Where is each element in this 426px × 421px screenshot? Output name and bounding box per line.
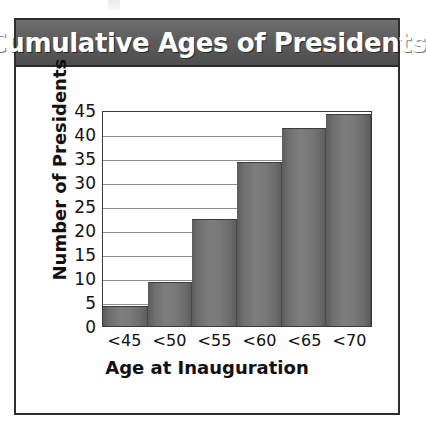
scan-artifact <box>108 0 120 10</box>
plot-canvas <box>102 111 372 327</box>
chart-frame: Cumulative Ages of Presidents Number of … <box>14 18 400 415</box>
y-tick-label: 30 <box>74 175 96 192</box>
x-tick-label: <60 <box>237 331 282 350</box>
y-tick-label: 25 <box>74 199 96 216</box>
bar <box>326 114 371 326</box>
y-tick-label: 45 <box>74 103 96 120</box>
chart-title: Cumulative Ages of Presidents <box>0 28 426 58</box>
y-tick-label: 20 <box>74 223 96 240</box>
bar <box>103 306 148 326</box>
y-tick-label: 0 <box>85 319 96 336</box>
chart-plot-area: Number of Presidents 051015202530354045 … <box>16 69 398 413</box>
x-tick-label: <45 <box>102 331 147 350</box>
y-tick-label: 5 <box>85 295 96 312</box>
y-tick-label: 10 <box>74 271 96 288</box>
y-axis-tick-labels: 051015202530354045 <box>60 111 96 327</box>
chart-title-bar: Cumulative Ages of Presidents <box>16 20 398 67</box>
y-tick-label: 15 <box>74 247 96 264</box>
x-tick-label: <50 <box>147 331 192 350</box>
bar <box>192 219 237 326</box>
y-tick-label: 40 <box>74 127 96 144</box>
bar <box>148 282 193 326</box>
x-axis-tick-labels: <45<50<55<60<65<70 <box>102 331 372 350</box>
y-tick-label: 35 <box>74 151 96 168</box>
x-tick-label: <70 <box>327 331 372 350</box>
bar <box>282 128 327 326</box>
bar-series <box>103 112 371 326</box>
bar <box>237 162 282 326</box>
x-axis-title: Age at Inauguration <box>16 357 398 378</box>
x-tick-label: <65 <box>282 331 327 350</box>
x-tick-label: <55 <box>192 331 237 350</box>
